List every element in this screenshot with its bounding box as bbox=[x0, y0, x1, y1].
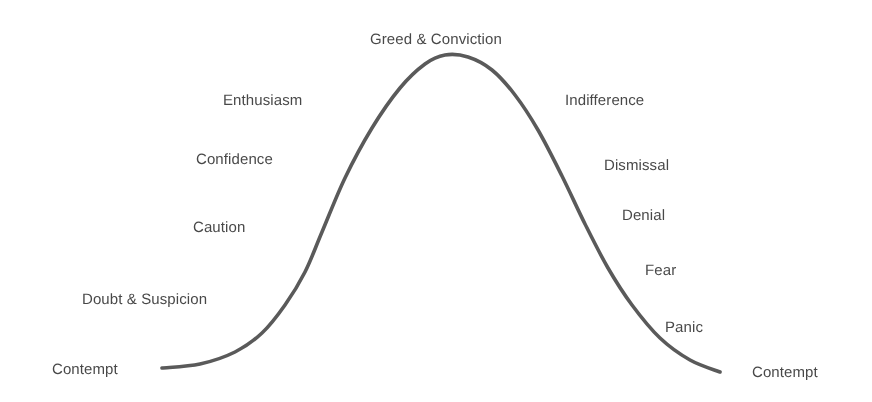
curve-label-dismissal: Dismissal bbox=[604, 158, 669, 173]
bell-curve-plot bbox=[0, 0, 872, 402]
curve-label-contempt: Contempt bbox=[52, 362, 118, 377]
curve-label-enthusiasm: Enthusiasm bbox=[223, 93, 302, 108]
curve-label-confidence: Confidence bbox=[196, 152, 273, 167]
curve-label-panic: Panic bbox=[665, 320, 703, 335]
curve-label-doubt-suspicion: Doubt & Suspicion bbox=[82, 292, 207, 307]
sentiment-cycle-figure: ContemptDoubt & SuspicionCautionConfiden… bbox=[0, 0, 872, 402]
curve-label-contempt: Contempt bbox=[752, 365, 818, 380]
curve-label-caution: Caution bbox=[193, 220, 245, 235]
curve-label-fear: Fear bbox=[645, 263, 676, 278]
curve-label-indifference: Indifference bbox=[565, 93, 644, 108]
curve-label-greed-conviction: Greed & Conviction bbox=[370, 32, 502, 47]
curve-label-denial: Denial bbox=[622, 208, 665, 223]
